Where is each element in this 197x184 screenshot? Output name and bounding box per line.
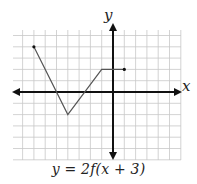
caption-text: y = 2f(x + 3) [52, 161, 146, 177]
coordinate-axes [12, 23, 182, 160]
function-graph [0, 0, 197, 184]
graph-caption: y = 2f(x + 3) [0, 161, 197, 177]
y-axis-down-arrow-icon [109, 152, 117, 160]
y-axis-up-arrow-icon [109, 23, 117, 31]
x-axis-label: x [182, 77, 190, 95]
end-endpoint-dot [123, 68, 126, 71]
x-axis-left-arrow-icon [12, 88, 20, 96]
start-endpoint-dot [32, 45, 35, 48]
grid-lines [13, 30, 181, 160]
y-axis-label: y [104, 6, 112, 24]
